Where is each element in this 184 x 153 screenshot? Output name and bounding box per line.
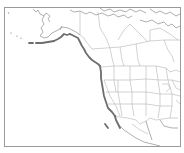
range-map bbox=[0, 0, 184, 153]
map-canvas bbox=[0, 0, 184, 153]
map-frame bbox=[5, 8, 181, 147]
island-dot bbox=[20, 37, 21, 38]
island-dot bbox=[10, 32, 11, 33]
island-dot bbox=[16, 35, 17, 36]
